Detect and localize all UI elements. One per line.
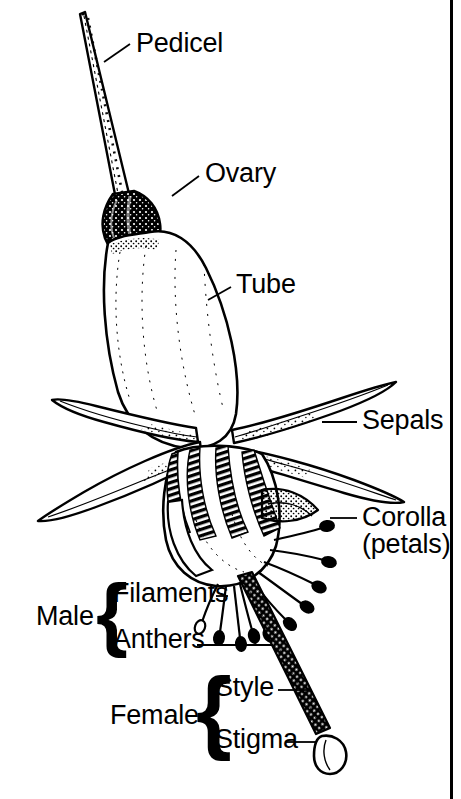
label-ovary: Ovary bbox=[205, 160, 276, 188]
leader-ovary bbox=[172, 176, 199, 196]
label-female: Female bbox=[110, 702, 199, 730]
label-tube: Tube bbox=[236, 271, 296, 299]
brace-male: { bbox=[96, 572, 128, 654]
label-male: Male bbox=[36, 603, 94, 631]
diagram-canvas: Pedicel Ovary Tube Sepals Corolla (petal… bbox=[0, 0, 461, 799]
label-corolla: Corolla bbox=[362, 504, 446, 532]
stigma-head bbox=[314, 736, 346, 774]
label-filaments: Filaments bbox=[113, 580, 228, 608]
label-pedicel: Pedicel bbox=[136, 30, 223, 58]
brace-female: { bbox=[196, 664, 232, 756]
label-petals: (petals) bbox=[362, 531, 450, 559]
style-shaft bbox=[238, 572, 330, 734]
pedicel-stalk bbox=[80, 12, 132, 210]
leader-pedicel bbox=[104, 44, 130, 62]
label-sepals: Sepals bbox=[362, 407, 443, 435]
right-border-rule bbox=[450, 0, 453, 799]
